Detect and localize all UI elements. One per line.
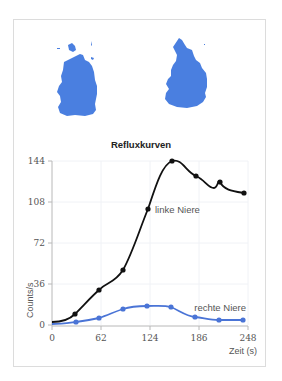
x-tick-248: 248 — [239, 333, 256, 343]
label-linke-niere: linke Niere — [155, 204, 200, 215]
x-axis-label: Zeit (s) — [229, 346, 257, 356]
series-linke-niere — [52, 158, 247, 322]
chart-title: Refluxkurven — [0, 139, 282, 150]
x-tick-186: 186 — [190, 333, 207, 343]
y-tick-0: 0 — [39, 320, 45, 330]
y-tick-36: 36 — [34, 279, 46, 289]
x-tick-62: 62 — [95, 333, 106, 343]
label-rechte-niere: rechte Niere — [194, 302, 246, 313]
x-tick-0: 0 — [49, 333, 55, 343]
right-kidney-scan — [165, 38, 207, 108]
left-kidney-scan — [57, 41, 97, 116]
y-axis-label: Counts/s — [25, 282, 35, 318]
figure-svg: 144 108 72 36 0 0 62 124 186 248 Zeit (s… — [0, 0, 282, 381]
x-tick-labels: 0 62 124 186 248 — [49, 333, 257, 343]
chart-grid — [52, 161, 248, 325]
y-tick-108: 108 — [28, 197, 45, 207]
x-tick-124: 124 — [141, 333, 158, 343]
y-tick-72: 72 — [34, 238, 45, 248]
y-tick-144: 144 — [28, 156, 45, 166]
